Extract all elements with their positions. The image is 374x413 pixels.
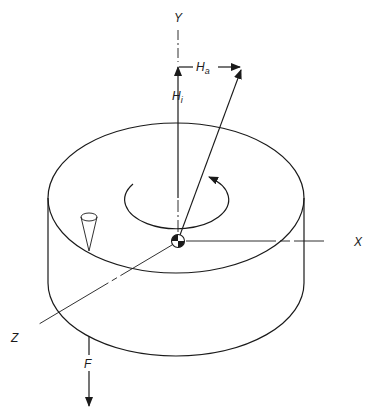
rotation-arrow-icon — [125, 177, 229, 229]
h-i-label: Hi — [172, 89, 184, 105]
h-a-label: Ha — [196, 60, 210, 76]
resultant-vector — [180, 70, 241, 235]
cylinder-bottom-edge — [48, 283, 304, 356]
cylinder-top-ellipse — [48, 123, 304, 273]
y-axis-label: Y — [174, 11, 183, 25]
z-axis — [29, 245, 172, 330]
force-label: F — [84, 357, 92, 371]
z-axis-label: Z — [10, 331, 19, 345]
gyro-cylinder-diagram: Y X Z Ha Hi F — [0, 0, 374, 413]
cone-marker-icon — [81, 213, 97, 251]
center-of-gravity-icon — [172, 235, 185, 248]
x-axis-label: X — [353, 235, 363, 249]
